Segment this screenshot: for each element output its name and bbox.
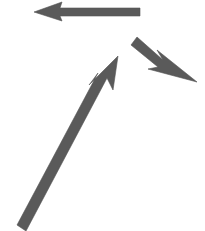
background-rect [0,0,205,231]
arrow-illustration-canvas [0,0,205,231]
arrows-svg [0,0,205,231]
